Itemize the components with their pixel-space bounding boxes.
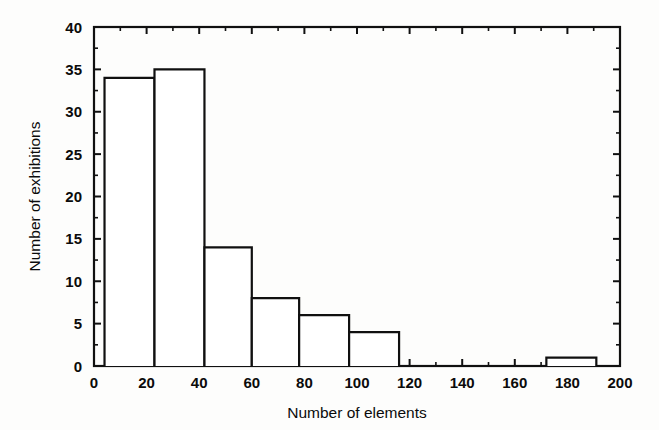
histogram-bar [154,69,204,366]
histogram-bar [299,315,349,366]
histogram-figure: 0204060801001201401601802000510152025303… [0,0,659,430]
y-tick-label: 40 [65,19,82,36]
x-tick-label: 40 [191,374,208,391]
y-tick-label: 15 [65,230,82,247]
histogram-bar [546,358,596,366]
x-tick-label: 20 [138,374,155,391]
x-tick-label: 60 [243,374,260,391]
y-tick-label: 5 [74,315,82,332]
histogram-bar [105,78,155,366]
y-tick-label: 0 [74,358,82,375]
x-tick-label: 140 [450,374,475,391]
y-tick-label: 25 [65,146,82,163]
y-tick-label: 10 [65,273,82,290]
y-tick-label: 30 [65,103,82,120]
y-axis-title: Number of exhibitions [26,121,43,271]
x-tick-label: 80 [296,374,313,391]
x-axis-title: Number of elements [287,404,427,421]
x-tick-label: 0 [90,374,98,391]
histogram-bar [252,298,299,366]
x-tick-label: 200 [607,374,632,391]
y-tick-label: 35 [65,61,82,78]
x-tick-label: 180 [555,374,580,391]
chart-canvas: 0204060801001201401601802000510152025303… [0,0,659,430]
x-tick-label: 100 [344,374,369,391]
x-tick-label: 160 [502,374,527,391]
y-tick-label: 20 [65,188,82,205]
histogram-bar [349,332,399,366]
histogram-bar [204,247,251,366]
x-tick-label: 120 [397,374,422,391]
